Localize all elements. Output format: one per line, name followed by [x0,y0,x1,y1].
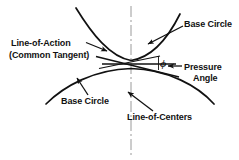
label-pressure-angle-line2: Angle [193,73,218,84]
upper-base-circle-arc [76,8,180,61]
label-line-of-action: Line-of-Action [11,38,71,49]
label-pressure-angle-line1: Pressure [184,62,222,73]
label-common-tangent: (Common Tangent) [9,50,89,61]
line-of-action-secondary [99,56,160,69]
label-base-circle-upper: Base Circle [184,19,232,30]
label-base-circle-lower: Base Circle [61,96,109,107]
label-phi-symbol: ϕ [160,57,166,69]
leader-base-circle-lower [77,78,88,95]
label-line-of-centers: Line-of-Centers [127,112,192,123]
leader-base-circle-upper [148,26,183,44]
leader-line-of-centers [128,92,153,111]
gear-pressure-angle-diagram: Line-of-Action (Common Tangent) Base Cir… [0,0,239,160]
